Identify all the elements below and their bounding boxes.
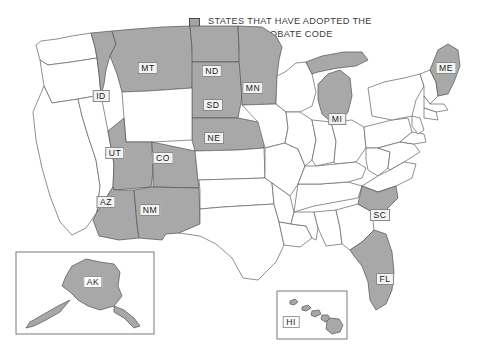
state-label-nd: ND bbox=[202, 65, 222, 77]
state-label-mn: MN bbox=[242, 82, 263, 94]
state-wy bbox=[122, 88, 192, 142]
state-label-sc: SC bbox=[370, 209, 390, 221]
state-label-mi: MI bbox=[328, 113, 346, 125]
state-ks bbox=[195, 148, 265, 180]
state-label-nm: NM bbox=[139, 204, 160, 216]
state-label-fl: FL bbox=[376, 273, 394, 285]
state-label-sd: SD bbox=[203, 99, 223, 111]
state-label-hi: HI bbox=[283, 316, 300, 328]
map-svg bbox=[0, 0, 483, 351]
state-nj bbox=[412, 116, 424, 134]
state-label-mt: MT bbox=[138, 62, 158, 74]
state-ny bbox=[368, 74, 424, 120]
state-label-me: ME bbox=[436, 62, 457, 74]
us-map-figure: STATES THAT HAVE ADOPTED THE UNIFORM PRO… bbox=[0, 0, 483, 351]
state-label-az: AZ bbox=[97, 196, 116, 208]
state-oh bbox=[331, 120, 366, 164]
state-mt bbox=[110, 26, 193, 92]
state-label-co: CO bbox=[153, 152, 174, 164]
state-co bbox=[152, 142, 199, 188]
state-label-ne: NE bbox=[204, 132, 224, 144]
state-ne bbox=[192, 118, 265, 151]
state-nd bbox=[190, 26, 240, 62]
state-label-id: ID bbox=[93, 90, 110, 102]
state-label-ak: AK bbox=[83, 276, 102, 288]
state-ky bbox=[298, 162, 366, 184]
state-label-ut: UT bbox=[105, 147, 124, 159]
